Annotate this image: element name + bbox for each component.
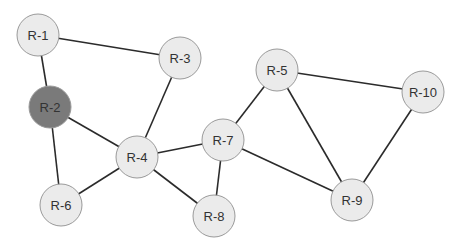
node-label: R-10 — [409, 85, 437, 100]
node-r-6[interactable]: R-6 — [40, 184, 82, 226]
node-label: R-3 — [170, 51, 191, 66]
node-label: R-8 — [204, 209, 225, 224]
network-diagram: R-1R-2R-3R-4R-5R-6R-7R-8R-9R-10 — [0, 0, 459, 247]
network-graph: R-1R-2R-3R-4R-5R-6R-7R-8R-9R-10 — [0, 0, 459, 247]
node-r-1[interactable]: R-1 — [17, 14, 59, 56]
edge-r-5-r-9 — [277, 70, 352, 200]
node-r-7[interactable]: R-7 — [202, 119, 244, 161]
node-label: R-5 — [267, 63, 288, 78]
node-label: R-1 — [28, 28, 49, 43]
node-r-5[interactable]: R-5 — [256, 49, 298, 91]
edge-r-5-r-10 — [277, 70, 423, 92]
node-r-2[interactable]: R-2 — [29, 86, 71, 128]
node-r-8[interactable]: R-8 — [193, 195, 235, 237]
node-label: R-6 — [51, 198, 72, 213]
node-label: R-7 — [213, 133, 234, 148]
node-label: R-9 — [342, 193, 363, 208]
node-label: R-4 — [127, 150, 148, 165]
node-r-10[interactable]: R-10 — [402, 71, 444, 113]
node-r-4[interactable]: R-4 — [116, 136, 158, 178]
node-r-3[interactable]: R-3 — [159, 37, 201, 79]
node-label: R-2 — [40, 100, 61, 115]
edge-r-1-r-3 — [38, 35, 180, 58]
node-r-9[interactable]: R-9 — [331, 179, 373, 221]
